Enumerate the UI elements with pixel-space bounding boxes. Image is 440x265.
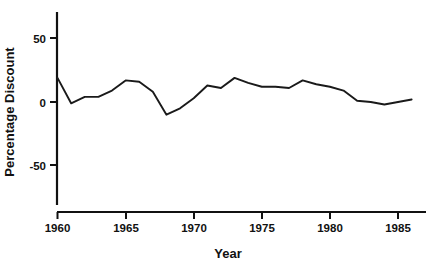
- x-tick-label-1970: 1970: [181, 222, 207, 234]
- y-axis-title: Percentage Discount: [2, 47, 17, 177]
- line-chart: 50 0 -50 1960 1965 1970 1975 1980 1985 Y…: [0, 0, 440, 265]
- x-axis-title: Year: [214, 246, 241, 261]
- x-tick-label-1975: 1975: [249, 222, 275, 234]
- chart-figure: 50 0 -50 1960 1965 1970 1975 1980 1985 Y…: [0, 0, 440, 265]
- y-tick-label-50: 50: [33, 33, 46, 45]
- y-tick-label-neg50: -50: [29, 160, 46, 172]
- x-tick-label-1965: 1965: [113, 222, 139, 234]
- x-tick-label-1960: 1960: [45, 222, 71, 234]
- x-tick-label-1985: 1985: [385, 222, 411, 234]
- y-tick-label-0: 0: [40, 97, 46, 109]
- data-line-percentage-discount: [58, 78, 412, 115]
- x-tick-label-1980: 1980: [317, 222, 343, 234]
